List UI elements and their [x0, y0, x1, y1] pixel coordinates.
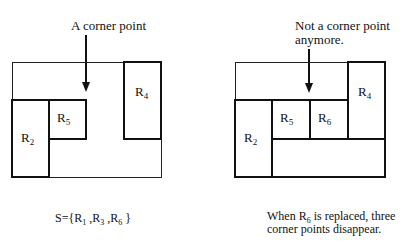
- rect-r5: R5: [48, 99, 87, 140]
- rect-subscript: 6: [327, 117, 332, 127]
- rect-r2: R2: [11, 99, 50, 178]
- rect-subscript: 5: [66, 117, 71, 127]
- bottom-free-space: [271, 138, 386, 178]
- rect-label: R: [318, 110, 327, 125]
- not-corner-annotation-line2: anymore.: [295, 34, 344, 46]
- rect-r4: R4: [123, 61, 162, 140]
- replacement-caption-line2: corner points disappear.: [267, 223, 381, 235]
- not-corner-annotation-line1: Not a corner point: [295, 20, 390, 32]
- rect-r2: R2: [234, 99, 273, 178]
- set-caption: S={R1 ,R3 ,R6 }: [55, 212, 131, 229]
- rect-label: R: [21, 130, 30, 145]
- rect-label: R: [244, 130, 253, 145]
- corner-point-annotation: A corner point: [71, 20, 146, 32]
- rect-label: R: [57, 110, 66, 125]
- rect-subscript: 5: [289, 117, 294, 127]
- rect-r4: R4: [347, 61, 386, 140]
- rect-label: R: [280, 110, 289, 125]
- rect-subscript: 4: [144, 91, 149, 101]
- rect-subscript: 4: [367, 91, 372, 101]
- rect-subscript: 2: [30, 137, 35, 147]
- rect-label: R: [358, 84, 367, 99]
- rect-label: R: [135, 84, 144, 99]
- rect-r5: R5: [271, 99, 311, 140]
- rect-r6: R6: [309, 99, 349, 140]
- rect-subscript: 2: [253, 137, 258, 147]
